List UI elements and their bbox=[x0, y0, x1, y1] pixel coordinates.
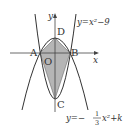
x-axis-label: x bbox=[93, 55, 98, 65]
lower-curve-label-suffix: x²+k bbox=[102, 113, 122, 123]
label-c: C bbox=[57, 99, 65, 110]
y-axis-label: y bbox=[47, 11, 54, 21]
lower-curve-frac-num: 1 bbox=[95, 110, 99, 118]
lower-curve-label-prefix: y=− bbox=[65, 113, 85, 123]
label-a: A bbox=[29, 47, 38, 58]
upper-curve-label: y=x²−9 bbox=[76, 17, 110, 27]
diagram-canvas: A B D C O y x y=x²−9 y=− 1 3 x²+k bbox=[0, 0, 133, 135]
label-o: O bbox=[44, 56, 52, 67]
label-b: B bbox=[71, 47, 78, 58]
lower-curve-frac-den: 3 bbox=[95, 119, 99, 127]
y-axis-arrow-icon bbox=[53, 13, 57, 18]
label-d: D bbox=[57, 26, 65, 37]
